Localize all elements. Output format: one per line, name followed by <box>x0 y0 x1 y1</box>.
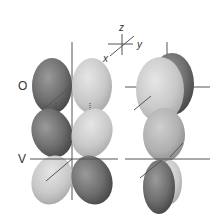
lobe-dark-lower <box>143 160 175 214</box>
lobe-light <box>72 58 112 114</box>
y-axis-label: y <box>136 39 143 50</box>
right-v-orbital <box>125 108 210 214</box>
orbital-diagram: z y x O V <box>0 0 224 220</box>
row-label-v: V <box>18 152 26 166</box>
lobe-light-upper <box>143 108 185 162</box>
lobe-light-upper-right <box>65 103 120 164</box>
row-label-o: O <box>18 79 27 93</box>
z-axis-label: z <box>118 22 124 33</box>
axis-triad: z y x <box>102 22 143 64</box>
x-axis-label: x <box>102 53 109 64</box>
lobe-dark-upper-left <box>25 103 80 164</box>
lobe-dark <box>32 58 72 114</box>
